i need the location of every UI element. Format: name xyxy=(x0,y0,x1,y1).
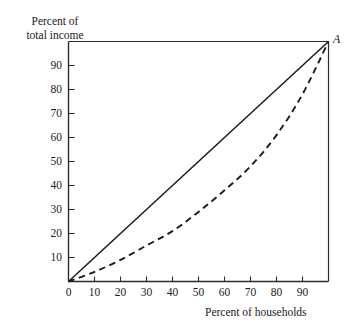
x-tick-label: 60 xyxy=(215,286,235,298)
x-tick-label: 80 xyxy=(267,286,287,298)
y-tick-label: 80 xyxy=(36,83,62,95)
x-tick-label: 0 xyxy=(59,286,79,298)
y-tick-label: 90 xyxy=(36,59,62,71)
x-tick-label: 50 xyxy=(189,286,209,298)
x-axis-title: Percent of households xyxy=(205,305,307,319)
x-tick-label: 70 xyxy=(241,286,261,298)
x-tick-label: 90 xyxy=(293,286,313,298)
x-tick-label: 20 xyxy=(111,286,131,298)
y-tick-label: 30 xyxy=(36,203,62,215)
y-tick-label: 20 xyxy=(36,227,62,239)
x-tick-label: 10 xyxy=(85,286,105,298)
point-a-label: A xyxy=(333,32,340,47)
y-tick-label: 40 xyxy=(36,179,62,191)
y-tick-label: 10 xyxy=(36,251,62,263)
y-tick-label: 60 xyxy=(36,131,62,143)
x-tick-label: 30 xyxy=(137,286,157,298)
x-tick-label: 40 xyxy=(163,286,183,298)
equality-line xyxy=(69,42,329,282)
lorenz-curve-figure: Percent oftotal income 01020304050607080… xyxy=(0,0,357,328)
y-tick-label: 70 xyxy=(36,107,62,119)
y-tick-label: 50 xyxy=(36,155,62,167)
